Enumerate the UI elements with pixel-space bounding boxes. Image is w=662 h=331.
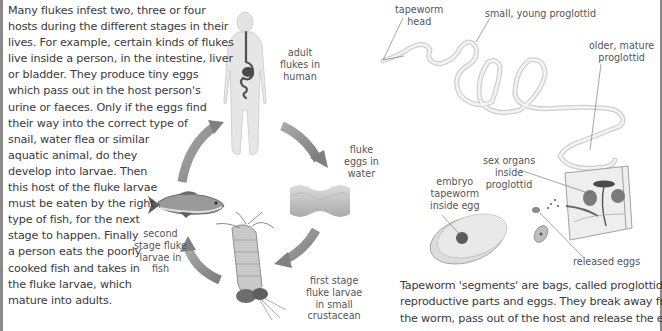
text-line: aquatic animal, do they (8, 148, 208, 164)
text-line: develop into larvae. Then (8, 164, 208, 180)
label-first-stage-fluke-larvae: first stage fluke larvae in small crusta… (306, 275, 362, 322)
label-small-young-proglottid: small, young proglottid (485, 8, 596, 20)
text-line: hosts during the different stages in the… (8, 19, 208, 35)
cycle-arrow-human-to-water (282, 126, 328, 168)
text-line: their way into the correct type of (8, 116, 208, 132)
tapeworm-egg-icon (424, 206, 512, 273)
text-line: this host of the fluke larvae (8, 180, 208, 196)
label-tapeworm-head: tapeworm head (395, 4, 443, 28)
text-line: urine or faeces. Only if the eggs find (8, 100, 208, 116)
text-line: snail, water flea or similar (8, 132, 208, 148)
tapeworm-caption: Tapeworm 'segments' are bags, called pro… (400, 278, 660, 327)
proglottid-detail-icon (547, 166, 632, 240)
text-line: the fluke larvae, which (8, 277, 208, 293)
caption-line: Tapeworm 'segments' are bags, called pro… (400, 278, 660, 294)
label-adult-flukes-in-human: adult flukes in human (280, 47, 320, 82)
tapeworm-body-icon (383, 42, 623, 168)
text-line: which pass out in the host person's (8, 83, 208, 99)
crustacean-icon (216, 212, 286, 320)
caption-line: reproductive parts and eggs. They break … (400, 294, 660, 310)
human-body-icon (224, 12, 267, 155)
water-waves-icon (290, 185, 350, 217)
cycle-arrow-water-to-crustacean (274, 230, 316, 268)
text-line: must be eaten by the right (8, 196, 208, 212)
label-released-eggs: released eggs (573, 256, 640, 268)
text-line: type of fish, for the next (8, 212, 208, 228)
label-second-stage-fluke-larvae: second stage fluke larvae in fish (134, 228, 187, 275)
released-eggs-icon (531, 207, 550, 245)
caption-line: the worm, pass out of the host and relea… (400, 311, 660, 327)
label-fluke-eggs-in-water: fluke eggs in water (344, 144, 379, 179)
text-line: mature into adults. (8, 293, 208, 309)
text-line: Many flukes infest two, three or four (8, 3, 208, 19)
text-line: or bladder. They produce tiny eggs (8, 67, 208, 83)
text-line: live inside a person, in the intestine, … (8, 51, 208, 67)
text-line: lives. For example, certain kinds of flu… (8, 35, 208, 51)
label-sex-organs-inside-proglottid: sex organs inside proglottid (483, 155, 535, 190)
label-older-mature-proglottid: older, mature proglottid (589, 40, 654, 64)
label-embryo-tapeworm-inside-egg: embryo tapeworm inside egg (430, 176, 480, 211)
